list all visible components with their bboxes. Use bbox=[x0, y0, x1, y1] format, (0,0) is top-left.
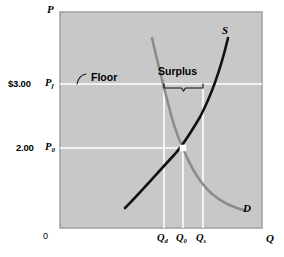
equilibrium-point-marker bbox=[180, 145, 186, 151]
quantity-supplied-label: Qs bbox=[196, 233, 206, 244]
supply-curve-label: S bbox=[222, 25, 228, 36]
quantity-equilibrium-label: Q0 bbox=[176, 233, 187, 244]
quantity-supplied-subscript: s bbox=[204, 237, 207, 244]
price-floor-value: $3.00 bbox=[8, 79, 31, 89]
y-axis-label: P bbox=[47, 4, 54, 15]
price-floor-symbol: Pf bbox=[45, 78, 54, 89]
floor-annotation-label: Floor bbox=[91, 72, 117, 83]
quantity-equilibrium-subscript: 0 bbox=[184, 237, 187, 244]
quantity-equilibrium-letter: Q bbox=[176, 232, 184, 243]
x-axis-label: Q bbox=[266, 233, 274, 244]
quantity-demanded-letter: Q bbox=[157, 232, 165, 243]
price-floor-symbol-subscript: f bbox=[51, 82, 53, 90]
price-floor-surplus-figure: P Q 0 $3.00 Pf 2.00 P0 Qd Q0 Qs Floor Su… bbox=[0, 0, 284, 257]
equilibrium-price-symbol-subscript: 0 bbox=[51, 146, 55, 154]
surplus-annotation-label: Surplus bbox=[158, 66, 197, 77]
quantity-demanded-label: Qd bbox=[157, 233, 168, 244]
chart-canvas bbox=[0, 0, 284, 257]
demand-curve-label: D bbox=[243, 203, 251, 214]
equilibrium-price-value: 2.00 bbox=[16, 143, 34, 153]
quantity-demanded-subscript: d bbox=[165, 237, 168, 244]
origin-label: 0 bbox=[43, 232, 48, 241]
quantity-supplied-letter: Q bbox=[196, 232, 204, 243]
equilibrium-price-symbol: P0 bbox=[45, 142, 55, 153]
plot-area-background bbox=[60, 12, 262, 228]
